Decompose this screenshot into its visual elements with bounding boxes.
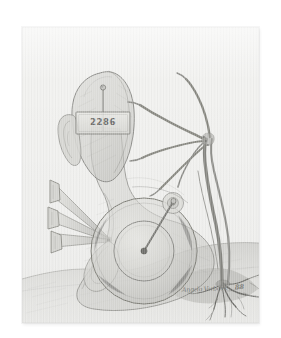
paper-sheet: 2286 Angelo Verbeek 88 xyxy=(22,27,259,323)
signature-year: 88 xyxy=(235,283,244,291)
drawing-canvas xyxy=(22,27,259,323)
id-tag-number: 2286 xyxy=(80,117,126,127)
artwork-frame: 2286 Angelo Verbeek 88 xyxy=(0,0,281,338)
